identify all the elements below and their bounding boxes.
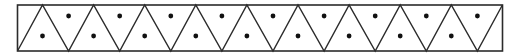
dot-upward-triangle xyxy=(245,34,250,39)
dot-downward-triangle xyxy=(271,14,276,19)
dot-upward-triangle xyxy=(193,34,198,39)
dot-downward-triangle xyxy=(220,14,225,19)
dot-downward-triangle xyxy=(373,14,378,19)
dot-upward-triangle xyxy=(91,34,96,39)
dot-downward-triangle xyxy=(117,14,122,19)
dot-downward-triangle xyxy=(475,14,480,19)
dot-downward-triangle xyxy=(424,14,429,19)
dot-downward-triangle xyxy=(322,14,327,19)
dot-upward-triangle xyxy=(296,34,301,39)
dot-upward-triangle xyxy=(142,34,147,39)
dot-downward-triangle xyxy=(168,14,173,19)
triangle-strip-svg xyxy=(0,0,521,56)
dot-downward-triangle xyxy=(66,14,71,19)
dot-upward-triangle xyxy=(40,34,45,39)
dot-upward-triangle xyxy=(398,34,403,39)
triangle-strip-diagram xyxy=(0,0,521,56)
dot-upward-triangle xyxy=(347,34,352,39)
dot-upward-triangle xyxy=(449,34,454,39)
